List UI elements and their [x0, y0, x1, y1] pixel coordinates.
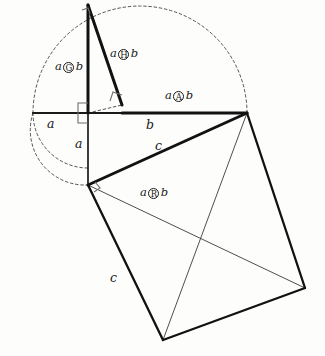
label-geometric-mean-left: a [55, 59, 62, 73]
thin-line-bottomvertex-to-rightpoint [88, 185, 305, 288]
bold-hypotenuse-c-lower [88, 185, 163, 340]
dashed-origin-to-foot [88, 105, 122, 113]
label-root-mean-square-right: b [161, 185, 168, 199]
thin-lines-group [88, 113, 305, 340]
circled-operator-h: H [118, 49, 129, 60]
label-harmonic-mean: aHb [110, 48, 138, 60]
bold-lowpoint-to-rightpoint [163, 288, 305, 340]
label-arithmetic-mean: aAb [165, 90, 193, 102]
label-harmonic-mean-left: a [110, 46, 117, 60]
label-segment-a-vertical: a [75, 138, 82, 151]
right-angle-markers-group [78, 8, 122, 192]
label-arithmetic-mean-left: a [165, 88, 172, 102]
label-segment-c-upper: c [155, 140, 162, 153]
dashed-construction-group [30, 6, 247, 185]
bold-hypotenuse-c-upper [88, 113, 247, 185]
label-segment-b-horizontal: b [146, 119, 154, 132]
right-angle-marker-lower-left [78, 113, 88, 123]
label-segment-c-lower: c [110, 272, 117, 285]
bold-rightpoint-to-rightend [247, 113, 305, 288]
circled-operator-r: R [148, 188, 159, 199]
label-geometric-mean: aGb [55, 61, 83, 73]
geometry-figure: aGb aHb aAb aRb a b a c c [0, 0, 325, 356]
label-segment-a-horizontal: a [47, 118, 54, 131]
label-arithmetic-mean-right: b [186, 88, 193, 102]
label-root-mean-square: aRb [140, 187, 168, 199]
dashed-semicircle-arc [33, 6, 247, 113]
baseline-group [33, 113, 247, 185]
label-root-mean-square-left: a [140, 185, 147, 199]
circled-operator-g: G [63, 62, 74, 73]
geometry-canvas [0, 0, 325, 356]
label-geometric-mean-right: b [76, 59, 83, 73]
circled-operator-a: A [173, 91, 184, 102]
label-harmonic-mean-right: b [131, 46, 138, 60]
